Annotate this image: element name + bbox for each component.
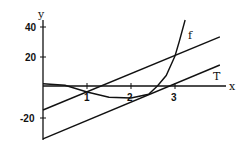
chart: y x f T 40 20 -20 1 2 3 <box>0 0 246 151</box>
x-tick-label-3: 3 <box>171 92 177 103</box>
plot-lines <box>43 20 220 139</box>
x-axis-label: x <box>229 80 236 93</box>
y-tick-label-40: 40 <box>25 22 37 33</box>
curve-label-f: f <box>188 29 193 42</box>
y-axis-label: y <box>37 8 45 21</box>
y-tick-label-20: 20 <box>25 52 37 63</box>
y-tick-label-neg20: -20 <box>20 113 35 124</box>
x-tick-label-1: 1 <box>84 92 90 103</box>
tangent-label-T: T <box>213 70 221 83</box>
x-tick-label-2: 2 <box>127 92 133 103</box>
